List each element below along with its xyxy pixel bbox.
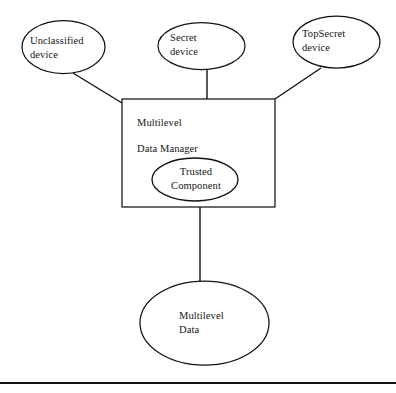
topsecret-device-ellipse	[293, 16, 380, 68]
multilevel-data-ellipse	[140, 281, 269, 365]
diagram-root: Unclassified device Secret device TopSec…	[0, 0, 396, 393]
secret-device-ellipse	[158, 23, 245, 70]
edge-unclassified-to-manager	[73, 73, 122, 103]
unclassified-device-ellipse	[22, 21, 105, 74]
multilevel-data-manager-box	[122, 99, 275, 207]
edge-topsecret-to-manager	[275, 68, 321, 99]
diagram-canvas	[0, 0, 396, 393]
